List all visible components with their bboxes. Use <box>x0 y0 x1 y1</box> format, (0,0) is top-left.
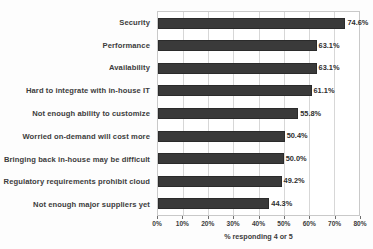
bar <box>158 63 317 74</box>
bar <box>158 40 317 51</box>
bar-row: 44.3% <box>158 193 359 216</box>
bar-row: 63.1% <box>158 35 359 58</box>
bar-value-label: 63.1% <box>317 42 340 50</box>
category-tick: Availability <box>0 57 154 80</box>
category-label: Not enough major suppliers yet <box>33 200 150 209</box>
category-label: Regulatory requirements prohibit cloud <box>4 177 150 186</box>
x-tick-label: 50% <box>277 220 290 228</box>
x-tick-mark <box>208 216 209 219</box>
bar-chart: SecurityPerformanceAvailabilityHard to i… <box>0 0 373 249</box>
bar-row: 49.2% <box>158 170 359 193</box>
category-tick: Hard to integrate with in-house IT <box>0 79 154 102</box>
category-label: Availability <box>109 63 150 72</box>
bar <box>158 153 284 164</box>
category-label: Security <box>119 18 150 27</box>
bar-value-label: 50.4% <box>285 132 308 140</box>
plot-area: 74.6%63.1%63.1%61.1%55.8%50.4%50.0%49.2%… <box>157 11 360 216</box>
bar-row: 63.1% <box>158 57 359 80</box>
x-tick-mark <box>259 216 260 219</box>
x-tick-mark <box>182 216 183 219</box>
bar-row: 55.8% <box>158 102 359 125</box>
bar-row: 50.4% <box>158 125 359 148</box>
category-label: Performance <box>102 41 150 50</box>
bars-layer: 74.6%63.1%63.1%61.1%55.8%50.4%50.0%49.2%… <box>158 12 359 215</box>
category-tick: Performance <box>0 34 154 57</box>
x-axis: 0%10%20%30%40%50%60%70%80% <box>157 216 360 230</box>
category-tick: Bringing back in-house may be difficult <box>0 148 154 171</box>
x-tick-label: 60% <box>303 220 316 228</box>
category-tick: Not enough major suppliers yet <box>0 193 154 216</box>
bar <box>158 198 269 209</box>
category-label: Not enough ability to customize <box>32 109 150 118</box>
x-tick-mark <box>360 216 361 219</box>
bar-value-label: 74.6% <box>345 19 368 27</box>
bar-value-label: 63.1% <box>317 64 340 72</box>
bar <box>158 18 345 29</box>
bar-row: 74.6% <box>158 12 359 35</box>
bar <box>158 85 312 96</box>
x-tick-mark <box>309 216 310 219</box>
x-tick-label: 30% <box>227 220 240 228</box>
bar <box>158 176 282 187</box>
x-tick-label: 70% <box>328 220 341 228</box>
x-tick-label: 10% <box>176 220 189 228</box>
bar-value-label: 49.2% <box>282 177 305 185</box>
bar-value-label: 61.1% <box>312 87 335 95</box>
category-tick: Security <box>0 11 154 34</box>
bar-row: 61.1% <box>158 80 359 103</box>
bar-value-label: 50.0% <box>284 155 307 163</box>
x-tick-mark <box>233 216 234 219</box>
x-tick-mark <box>284 216 285 219</box>
x-tick-label: 40% <box>252 220 265 228</box>
bar-value-label: 44.3% <box>269 200 292 208</box>
category-label: Worried on-demand will cost more <box>22 132 150 141</box>
bar-value-label: 55.8% <box>298 110 321 118</box>
x-tick-label: 80% <box>353 220 366 228</box>
x-tick-label: 0% <box>152 220 162 228</box>
category-tick: Not enough ability to customize <box>0 102 154 125</box>
x-tick-label: 20% <box>201 220 214 228</box>
bar <box>158 108 298 119</box>
x-tick-mark <box>157 216 158 219</box>
x-tick-mark <box>335 216 336 219</box>
x-axis-title: % responding 4 or 5 <box>157 232 360 241</box>
category-axis: SecurityPerformanceAvailabilityHard to i… <box>0 11 154 216</box>
bar-row: 50.0% <box>158 147 359 170</box>
category-label: Bringing back in-house may be difficult <box>4 155 150 164</box>
category-tick: Regulatory requirements prohibit cloud <box>0 170 154 193</box>
category-tick: Worried on-demand will cost more <box>0 125 154 148</box>
category-label: Hard to integrate with in-house IT <box>26 86 150 95</box>
bar <box>158 131 285 142</box>
